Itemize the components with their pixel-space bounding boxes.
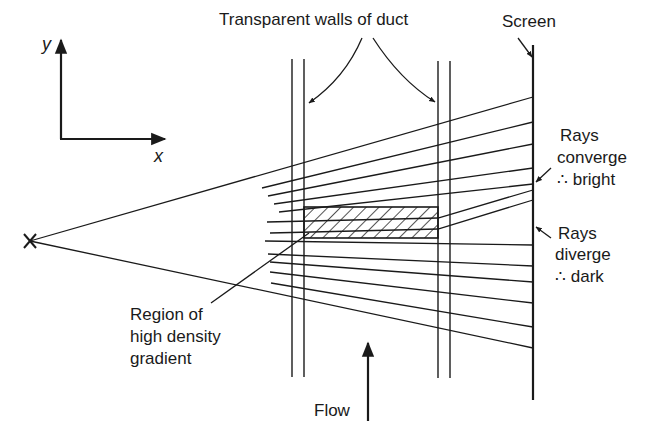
light-source-x-icon [24, 234, 36, 248]
region-leader-line [211, 233, 309, 303]
region-label-line2: high density [130, 327, 221, 347]
flow-label: Flow [314, 401, 350, 421]
walls-arrow-left [309, 38, 362, 103]
converge-label-line2: converge [557, 148, 627, 168]
walls-arrow-right [373, 38, 435, 102]
converge-arrow [536, 168, 551, 182]
diverge-label-line2: diverge [555, 245, 611, 265]
y-axis-label: y [42, 34, 51, 54]
coordinate-axes [60, 40, 165, 139]
diverge-label-line1: Rays [558, 224, 597, 244]
walls-label: Transparent walls of duct [219, 10, 408, 30]
diverge-label-line3: ∴ dark [555, 267, 604, 287]
diverge-arrow [536, 227, 551, 238]
ray [270, 272, 533, 303]
converge-label-line3: ∴ bright [557, 170, 615, 190]
ray [265, 241, 533, 245]
screen-label: Screen [502, 12, 556, 32]
region-label-line1: Region of [130, 305, 203, 325]
converge-label-line1: Rays [560, 126, 599, 146]
x-axis-label: x [154, 146, 163, 166]
ray [270, 262, 533, 282]
shadowgraph-diagram [0, 0, 649, 436]
screen-arrow [518, 38, 532, 57]
ray [268, 254, 533, 266]
light-rays [30, 97, 533, 348]
high-density-gradient-region [304, 207, 438, 238]
region-label-line3: gradient [130, 349, 191, 369]
ray [262, 122, 533, 188]
ray-outer-top [30, 97, 533, 241]
